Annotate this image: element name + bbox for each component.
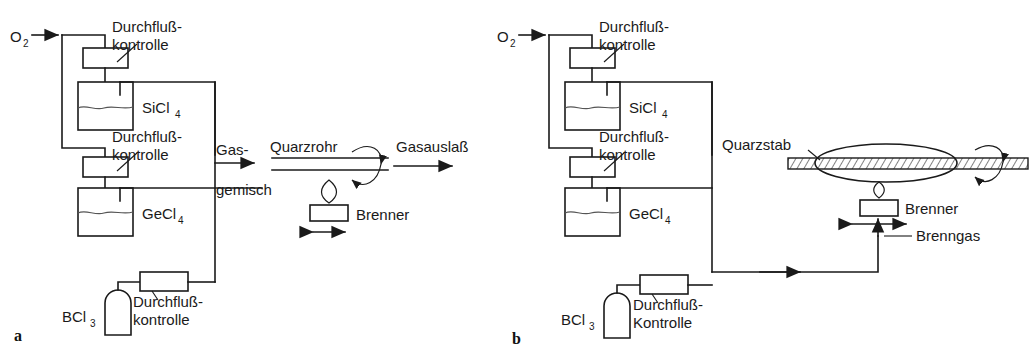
panel-a-o2-label: O	[10, 28, 22, 45]
panel-a-flow-controller-3-label: Durchfluß-	[133, 293, 203, 310]
panel-b-flow-controller-1-label2: kontrolle	[599, 36, 656, 53]
panel-a-flow-controller-2-label: Durchfluß-	[112, 128, 182, 145]
panel-a-burner-body	[310, 205, 348, 221]
panel-a-gecl4-label: GeCl	[142, 205, 176, 222]
panel-a-burner-label: Brenner	[356, 206, 409, 223]
panel-a-bcl3-subscript: 3	[90, 318, 96, 329]
panel-a-sicl4-subscript: 4	[175, 109, 181, 120]
panel-b-o2-subscript: 2	[510, 38, 516, 49]
panel-a-flow-controller-1-label2: kontrolle	[112, 36, 169, 53]
panel-a-gecl4-subscript: 4	[178, 215, 184, 226]
panel-b-o2-label: O	[497, 28, 509, 45]
panel-b: O 2 Durchfluß- kontrolle SiCl 4 Durchflu…	[497, 18, 1028, 347]
panel-b-burner-flame	[874, 182, 885, 198]
panel-b-bcl3-pipe-left	[617, 285, 640, 293]
panel-b-delivery-line	[712, 236, 878, 272]
panel-b-sicl4-subscript: 4	[662, 109, 668, 120]
figure-canvas: O 2 Durchfluß- kontrolle SiCl 4 Durchflu…	[0, 0, 1032, 355]
panel-a-letter: a	[14, 327, 22, 344]
panel-b-burner-label: Brenner	[905, 200, 958, 217]
panel-a-cylinder-bcl3	[105, 290, 131, 335]
panel-a-bubbler-sicl4	[78, 82, 133, 130]
panel-b-flow-controller-3[interactable]	[640, 275, 688, 294]
panel-b-gecl4-subscript: 4	[665, 215, 671, 226]
panel-a-quartz-tube-label: Quarzrohr	[270, 138, 338, 155]
panel-b-bubbler-sicl4	[565, 82, 620, 130]
panel-a-flow-controller-3[interactable]	[140, 272, 188, 291]
panel-b-flow-controller-1-label: Durchfluß-	[599, 18, 669, 35]
panel-b-gecl4-label: GeCl	[629, 205, 663, 222]
panel-a-o2-subscript: 2	[23, 38, 29, 49]
panel-a-gas-mixture-label-2: gemisch	[216, 181, 272, 198]
panel-b-flow-controller-2-label2: kontrolle	[599, 146, 656, 163]
panel-a-sicl4-label: SiCl	[142, 99, 170, 116]
panel-b-bcl3-subscript: 3	[589, 321, 595, 332]
panel-a-gas-mixture-label-1: Gas-	[216, 141, 249, 158]
panel-b-burner-gas-label: Brenngas	[916, 227, 980, 244]
panel-a-burner-flame	[322, 180, 337, 203]
panel-b-o2-branch-top	[549, 35, 592, 48]
panel-a-flow-controller-3-label2: kontrolle	[133, 311, 190, 328]
panel-a-gas-outlet-label: Gasauslaß	[396, 138, 469, 155]
panel-a-rotation-arrow-bottom	[352, 164, 381, 184]
panel-b-letter: b	[512, 330, 521, 347]
panel-a-bcl3-pipe-left	[118, 282, 140, 290]
panel-b-bcl3-label: BCl	[561, 311, 585, 328]
panel-b-quartz-rod	[788, 158, 1028, 169]
panel-b-flow-controller-3-label: Durchfluß-	[633, 296, 703, 313]
panel-b-burner-body	[860, 200, 898, 216]
panel-b-flow-controller-3-label2: Kontrolle	[633, 314, 692, 331]
panel-b-flow-controller-2-label: Durchfluß-	[599, 128, 669, 145]
panel-b-sicl4-label: SiCl	[629, 99, 657, 116]
panel-a: O 2 Durchfluß- kontrolle SiCl 4 Durchflu…	[10, 18, 469, 344]
panel-b-quartz-rod-label: Quarzstab	[722, 136, 791, 153]
panel-a-flow-controller-2-label2: kontrolle	[112, 146, 169, 163]
panel-a-rotation-arrow-top	[352, 147, 381, 164]
panel-b-cylinder-bcl3	[604, 293, 630, 338]
panel-a-bcl3-label: BCl	[62, 308, 86, 325]
panel-a-flow-controller-1-label: Durchfluß-	[112, 18, 182, 35]
panel-a-o2-branch-top	[62, 35, 105, 48]
